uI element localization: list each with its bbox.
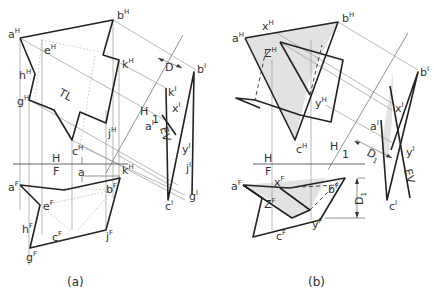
panel-b: aH xH bH ZH yH cH bI xI aI yI cI EV H 1 …	[231, 11, 429, 289]
svg-text:1: 1	[342, 148, 349, 161]
svg-text:aI: aI	[370, 119, 379, 133]
svg-text:a: a	[78, 166, 85, 179]
svg-text:xI: xI	[395, 101, 404, 115]
svg-text:H: H	[52, 152, 60, 165]
svg-text:aI: aI	[145, 119, 154, 133]
svg-text:xI: xI	[172, 101, 181, 115]
svg-text:aF: aF	[231, 179, 242, 193]
svg-text:D1: D1	[353, 192, 368, 205]
svg-text:bF: bF	[328, 182, 339, 196]
svg-text:F: F	[265, 165, 271, 178]
svg-text:H: H	[264, 152, 272, 165]
svg-text:cH: cH	[72, 144, 83, 158]
svg-text:TL: TL	[56, 86, 75, 104]
svg-text:eH: eH	[44, 43, 56, 57]
svg-text:bI: bI	[420, 65, 429, 79]
svg-text:EV: EV	[157, 125, 173, 143]
svg-text:H: H	[140, 105, 148, 118]
svg-text:gI: gI	[189, 189, 198, 203]
svg-text:aH: aH	[232, 31, 244, 45]
svg-text:cI: cI	[389, 199, 397, 213]
svg-text:jI: jI	[185, 161, 191, 175]
svg-text:D: D	[165, 61, 173, 74]
svg-text:hF: hF	[22, 222, 33, 236]
svg-text:yI: yI	[182, 142, 191, 156]
svg-text:bI: bI	[197, 62, 206, 76]
svg-text:eF: eF	[43, 199, 54, 213]
svg-text:yH: yH	[315, 96, 327, 110]
panel-a: aH bH eH hH gH kH cH jH kH TL D H 1 EV b…	[8, 8, 206, 289]
svg-text:H: H	[330, 140, 338, 153]
svg-text:F: F	[53, 165, 59, 178]
svg-text:cF: cF	[276, 229, 286, 243]
caption-b: (b)	[308, 275, 325, 289]
svg-text:aH: aH	[8, 27, 20, 41]
svg-text:jF: jF	[105, 229, 113, 243]
svg-text:kH: kH	[122, 163, 134, 177]
polygon-fv-a	[20, 178, 120, 248]
svg-text:jH: jH	[107, 126, 116, 140]
svg-text:cH: cH	[296, 142, 307, 156]
svg-text:EV: EV	[401, 167, 417, 185]
projection-lines-a	[13, 20, 196, 265]
svg-text:cF: cF	[52, 230, 62, 244]
svg-text:gF: gF	[26, 250, 37, 264]
svg-text:yI: yI	[406, 145, 415, 159]
svg-text:bH: bH	[342, 11, 354, 25]
svg-text:yF: yF	[312, 217, 323, 231]
svg-text:aF: aF	[8, 180, 19, 194]
svg-text:xH: xH	[262, 19, 274, 33]
svg-text:ZF: ZF	[264, 197, 276, 211]
svg-text:D1: D1	[364, 146, 382, 165]
caption-a: (a)	[67, 275, 84, 289]
svg-text:kI: kI	[168, 85, 176, 99]
svg-text:bH: bH	[117, 8, 129, 22]
descriptive-geometry-figure: aH bH eH hH gH kH cH jH kH TL D H 1 EV b…	[0, 0, 434, 294]
svg-text:hH: hH	[19, 68, 31, 82]
svg-text:cI: cI	[165, 199, 173, 213]
svg-text:kH: kH	[122, 57, 134, 71]
polygon-hv-a	[20, 20, 119, 140]
svg-text:gH: gH	[17, 94, 29, 108]
